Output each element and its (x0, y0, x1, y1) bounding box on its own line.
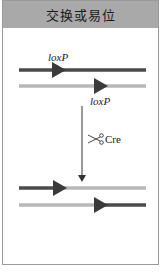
loxp-triangle-bottom (94, 78, 108, 94)
loxp-triangle-top (52, 62, 66, 78)
recombination-diagram (0, 0, 162, 274)
loxp-triangle-after-bottom (94, 197, 108, 213)
loxp-label-top: loxP (48, 51, 68, 63)
loxp-label-bottom: loxP (90, 95, 110, 107)
loxp-triangle-after-top (53, 180, 67, 196)
reaction-arrow-head (78, 175, 86, 182)
cre-label: Cre (105, 133, 121, 145)
scissors-icon (88, 134, 103, 145)
